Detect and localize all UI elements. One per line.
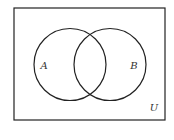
venn-diagram: A B U bbox=[0, 0, 174, 140]
universe-label: U bbox=[150, 102, 159, 113]
set-b-label: B bbox=[129, 60, 137, 71]
universe-rectangle bbox=[14, 8, 165, 120]
set-a-label: A bbox=[39, 60, 47, 71]
